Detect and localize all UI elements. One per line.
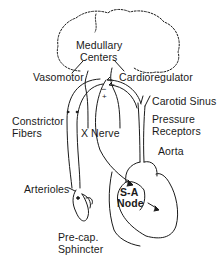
brainstem-left: [85, 71, 88, 128]
label-vagus-nerve: X Nerve: [81, 127, 120, 139]
label-medullary: Medullary: [76, 39, 122, 51]
label-node: Node: [117, 197, 144, 209]
label-vasomotor: Vasomotor: [33, 71, 84, 83]
label-pre-cap: Pre-cap.: [58, 231, 98, 243]
label-fibers: Fibers: [12, 127, 42, 139]
brain-midline: [95, 14, 96, 32]
baroreceptor-reflex-diagram: Medullary Centers Vasomotor Cardioregula…: [0, 0, 220, 258]
carotid-right-wall: [144, 106, 145, 162]
label-centers: Centers: [80, 51, 117, 63]
label-aorta: Aorta: [158, 145, 184, 157]
label-sphincter: Sphincter: [58, 243, 103, 255]
arteriole-vessel: [73, 190, 89, 221]
label-carotid-sinus: Carotid Sinus: [152, 95, 216, 107]
aorta-arch: [126, 162, 157, 182]
label-pressure: Pressure: [152, 113, 195, 125]
label-constrictor: Constrictor: [12, 115, 64, 127]
carotid-branch: [141, 96, 150, 106]
sign-plus: +: [102, 91, 107, 103]
label-cardioregulator: Cardioregulator: [119, 71, 193, 83]
afferent-fiber-inner: [110, 85, 137, 108]
afferent-fiber-outer: [108, 80, 141, 104]
carotid-left-wall: [138, 103, 140, 162]
fiber-marker: [67, 111, 69, 113]
label-arterioles: Arterioles: [24, 183, 69, 195]
sphincter-marker: [77, 197, 80, 200]
fiber-marker: [76, 111, 78, 113]
label-receptors: Receptors: [152, 125, 201, 137]
